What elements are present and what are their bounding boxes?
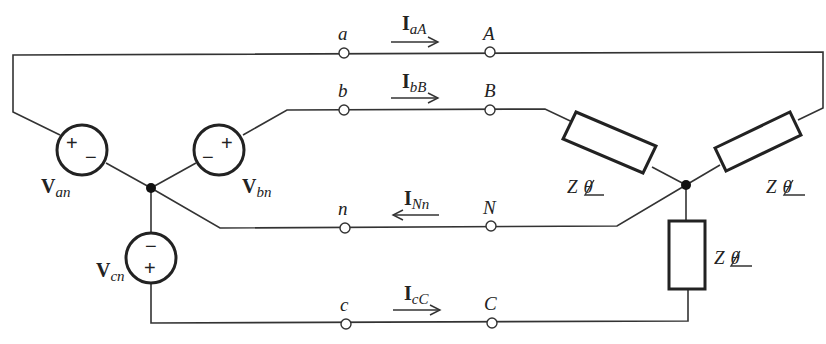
terminal-N xyxy=(486,221,496,231)
vbn-label: Vbn xyxy=(242,175,271,200)
label-b: b xyxy=(338,80,348,101)
van-minus-sign: − xyxy=(85,146,97,168)
source-van-circle xyxy=(57,125,107,175)
load-zb: Z θ xyxy=(563,112,656,197)
load-neutral-node xyxy=(681,180,691,190)
vbn-plus-sign: + xyxy=(221,132,233,154)
za-label: Z θ xyxy=(766,176,792,197)
label-B: B xyxy=(484,80,496,101)
source-vbn: − + Vbn xyxy=(194,125,271,200)
wire-vbn-neutral xyxy=(151,163,196,188)
wire-zb-neutral xyxy=(652,167,686,185)
wire-line-b xyxy=(243,109,583,135)
vcn-label: Vcn xyxy=(96,259,125,284)
van-plus-sign: + xyxy=(66,132,78,154)
wire-za-neutral xyxy=(686,165,720,185)
icc-label: IcC xyxy=(404,282,429,307)
current-inn: INn xyxy=(393,187,439,220)
van-label: Van xyxy=(41,175,70,200)
inn-label: INn xyxy=(404,187,429,212)
iaa-label: IaA xyxy=(402,12,427,37)
label-N: N xyxy=(482,197,497,218)
terminal-B xyxy=(485,105,495,115)
load-za: Z θ xyxy=(715,112,805,197)
label-n: n xyxy=(338,198,348,219)
terminal-b xyxy=(339,105,349,115)
terminal-n xyxy=(340,223,350,233)
current-icc: IcC xyxy=(393,282,440,315)
label-C: C xyxy=(484,293,497,314)
source-van: + − Van xyxy=(41,125,107,200)
terminal-a xyxy=(339,48,349,58)
load-zc: Z θ xyxy=(669,221,752,289)
vcn-minus-sign: − xyxy=(145,235,157,257)
zb-label: Z θ xyxy=(567,176,593,197)
current-ibb: IbB xyxy=(391,70,438,103)
ibb-label: IbB xyxy=(402,70,426,95)
terminal-C xyxy=(487,318,497,328)
source-neutral-node xyxy=(146,183,156,193)
vbn-minus-sign: − xyxy=(202,146,214,168)
impedance-zb-box xyxy=(563,112,656,173)
terminal-labels: a b n c A B N C xyxy=(338,23,497,315)
three-phase-circuit-diagram: a b n c A B N C + − Van − + Vbn − + Vcn … xyxy=(0,0,826,344)
label-c: c xyxy=(340,294,349,315)
arrow-right-icon xyxy=(391,37,438,47)
terminal-c xyxy=(341,319,351,329)
impedance-zc-box xyxy=(669,221,705,289)
label-a: a xyxy=(338,23,348,44)
label-A: A xyxy=(481,23,495,44)
vcn-plus-sign: + xyxy=(144,257,156,279)
source-vcn: − + Vcn xyxy=(96,233,176,284)
current-iaa: IaA xyxy=(391,12,438,47)
terminal-A xyxy=(485,47,495,57)
wire-van-neutral xyxy=(106,163,151,188)
impedance-za-box xyxy=(715,112,801,171)
